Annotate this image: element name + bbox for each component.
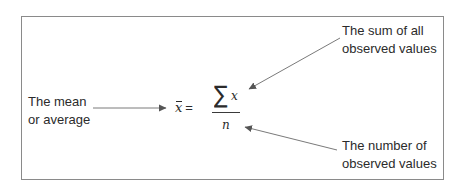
mean-label-line-1: The mean <box>28 93 90 111</box>
count-label-line-2: observed values <box>342 155 437 173</box>
denominator: n <box>222 118 230 132</box>
numerator-variable: x <box>231 89 238 103</box>
sum-label-line-1: The sum of all <box>342 22 437 40</box>
fraction-bar <box>212 112 240 113</box>
formula-lhs: x= <box>175 100 193 115</box>
mean-label-line-2: or average <box>28 111 90 129</box>
sum-label: The sum of all observed values <box>342 22 437 58</box>
x-bar-symbol: x <box>175 100 182 115</box>
sigma-icon: ∑ <box>214 82 228 108</box>
equals-sign: = <box>185 100 193 115</box>
count-label: The number of observed values <box>342 137 437 173</box>
mean-label: The mean or average <box>28 93 90 129</box>
sum-label-line-2: observed values <box>342 40 437 58</box>
count-label-line-1: The number of <box>342 137 437 155</box>
